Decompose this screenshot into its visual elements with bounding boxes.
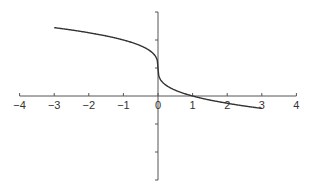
x-tick-label: −3 [48, 99, 61, 111]
x-tick-label: 2 [224, 99, 230, 111]
x-tick-label: 3 [259, 99, 265, 111]
x-tick-label: −2 [83, 99, 96, 111]
x-tick-labels: −4−3−2−101234 [13, 99, 299, 111]
x-tick-label: −4 [13, 99, 26, 111]
x-tick-label: 1 [190, 99, 196, 111]
function-plot: −4−3−2−101234 [0, 0, 312, 189]
x-tick-label: 0 [155, 99, 161, 111]
x-tick-label: 4 [293, 99, 299, 111]
x-tick-label: −1 [117, 99, 130, 111]
